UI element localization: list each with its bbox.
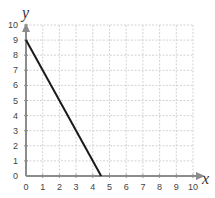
- x-tick-label: 7: [140, 182, 145, 192]
- x-tick-label: 10: [188, 182, 198, 192]
- y-tick-label: 4: [13, 111, 18, 121]
- x-tick-label: 4: [90, 182, 95, 192]
- series-line: [26, 40, 101, 176]
- x-tick-label: 9: [174, 182, 179, 192]
- y-tick-label: 1: [13, 156, 18, 166]
- y-tick-label: 6: [13, 80, 18, 90]
- y-axis-label: y: [20, 4, 30, 22]
- y-tick-label: 0: [13, 171, 18, 181]
- y-tick-label: 10: [8, 20, 18, 30]
- y-tick-label: 5: [13, 96, 18, 106]
- y-tick-label: 3: [13, 126, 18, 136]
- y-tick-label: 7: [13, 65, 18, 75]
- grid-lines: [26, 25, 193, 176]
- tick-labels: 012345678910012345678910: [8, 20, 198, 192]
- x-tick-label: 1: [40, 182, 45, 192]
- line-chart: 012345678910012345678910 x y: [0, 0, 215, 198]
- y-axis-arrow-icon: [22, 23, 30, 32]
- x-tick-label: 5: [107, 182, 112, 192]
- x-tick-label: 8: [157, 182, 162, 192]
- x-tick-label: 0: [23, 182, 28, 192]
- x-tick-label: 6: [124, 182, 129, 192]
- x-tick-label: 2: [57, 182, 62, 192]
- y-tick-label: 2: [13, 141, 18, 151]
- data-series: [26, 40, 101, 176]
- y-tick-label: 8: [13, 50, 18, 60]
- axes: [22, 23, 205, 180]
- x-axis-label: x: [201, 170, 209, 187]
- y-tick-label: 9: [13, 35, 18, 45]
- x-tick-label: 3: [74, 182, 79, 192]
